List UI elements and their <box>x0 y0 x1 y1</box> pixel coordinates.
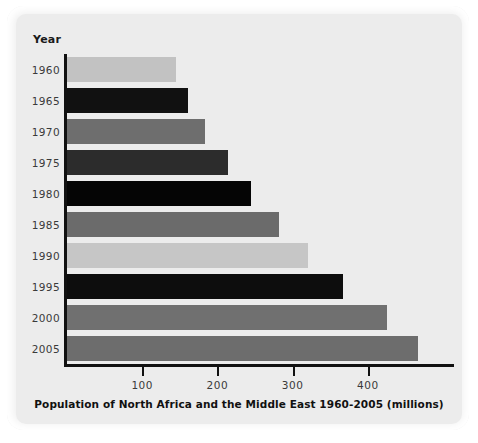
y-tick-label-1985: 1985 <box>24 219 60 231</box>
bar-chart-plot-area: Year 19601965197019751980198519901995200… <box>0 0 478 443</box>
bar-2000 <box>67 305 387 330</box>
y-tick-label-1995: 1995 <box>24 281 60 293</box>
bar-1975 <box>67 150 228 175</box>
x-tick-label-100: 100 <box>122 379 162 391</box>
x-tick-label-200: 200 <box>197 379 237 391</box>
y-axis-title: Year <box>33 33 61 46</box>
bar-1970 <box>67 119 205 144</box>
x-tick-300 <box>293 367 295 376</box>
bar-1965 <box>67 88 188 113</box>
x-tick-100 <box>142 367 144 376</box>
y-tick-label-1990: 1990 <box>24 250 60 262</box>
x-tick-400 <box>368 367 370 376</box>
x-tick-200 <box>217 367 219 376</box>
y-tick-label-1970: 1970 <box>24 126 60 138</box>
bar-1960 <box>67 57 176 82</box>
y-tick-label-1960: 1960 <box>24 64 60 76</box>
bar-1995 <box>67 274 343 299</box>
bar-1985 <box>67 212 279 237</box>
bar-1990 <box>67 243 308 268</box>
x-tick-label-300: 300 <box>273 379 313 391</box>
x-axis-line <box>64 364 454 367</box>
bar-1980 <box>67 181 251 206</box>
bar-2005 <box>67 336 418 361</box>
y-tick-label-1975: 1975 <box>24 157 60 169</box>
y-tick-label-2005: 2005 <box>24 343 60 355</box>
y-tick-label-1980: 1980 <box>24 188 60 200</box>
x-tick-label-400: 400 <box>348 379 388 391</box>
chart-title: Population of North Africa and the Middl… <box>0 398 478 410</box>
y-tick-label-2000: 2000 <box>24 312 60 324</box>
y-tick-label-1965: 1965 <box>24 95 60 107</box>
chart-figure: Year 19601965197019751980198519901995200… <box>0 0 478 443</box>
